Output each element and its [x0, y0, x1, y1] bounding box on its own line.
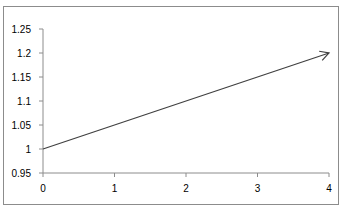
x-tick-label: 0 — [40, 183, 46, 194]
x-tick-label: 1 — [112, 183, 118, 194]
line-chart: 0.9511.051.11.151.21.25 01234 — [0, 0, 344, 214]
y-tick-label: 1 — [25, 144, 31, 155]
y-axis: 0.9511.051.11.151.21.25 — [12, 24, 43, 179]
data-series — [43, 51, 329, 149]
y-tick-label: 1.1 — [17, 96, 31, 107]
y-tick-label: 1.15 — [12, 72, 32, 83]
series-line — [43, 53, 329, 149]
y-tick-label: 1.25 — [12, 24, 32, 35]
x-axis: 01234 — [40, 173, 332, 194]
y-tick-label: 1.2 — [17, 48, 31, 59]
y-tick-label: 0.95 — [12, 168, 32, 179]
x-tick-label: 2 — [183, 183, 189, 194]
y-tick-label: 1.05 — [12, 120, 32, 131]
x-tick-label: 3 — [255, 183, 261, 194]
x-tick-label: 4 — [326, 183, 332, 194]
